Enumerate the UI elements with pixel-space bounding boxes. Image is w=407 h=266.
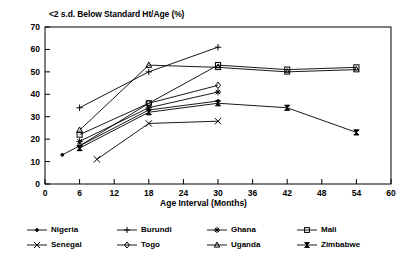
x-axis-label: Age Interval (Months)	[0, 198, 407, 208]
legend-marker-bowtie-icon	[296, 239, 318, 251]
series-senegal	[94, 118, 222, 163]
x-tick-label: 0	[35, 188, 55, 198]
x-tick-label: 12	[104, 188, 124, 198]
x-tick-label: 18	[139, 188, 159, 198]
legend-entry-nigeria[interactable]: Nigeria	[26, 222, 116, 237]
legend-label: Nigeria	[51, 224, 78, 236]
y-tick-label: 20	[22, 134, 40, 144]
legend-label: Uganda	[231, 239, 260, 251]
series-line	[97, 121, 218, 159]
legend-entry-zimbabwe[interactable]: Zimbabwe	[296, 237, 386, 252]
x-tick-label: 48	[312, 188, 332, 198]
x-tick-label: 60	[381, 188, 401, 198]
series-line	[80, 47, 218, 108]
legend-marker-dot-icon	[26, 224, 48, 236]
x-tick-label: 36	[243, 188, 263, 198]
x-tick-label: 6	[70, 188, 90, 198]
y-tick-label: 10	[22, 157, 40, 167]
legend-entry-mali[interactable]: Mali	[296, 222, 386, 237]
legend-entry-togo[interactable]: Togo	[116, 237, 206, 252]
legend-key-glyph	[117, 227, 137, 233]
legend-marker-asterisk-icon	[206, 224, 228, 236]
legend-entry-burundi[interactable]: Burundi	[116, 222, 206, 237]
marker-dot	[36, 228, 39, 231]
chart-figure: <2 s.d. Below Standard Ht/Age (%) 010203…	[0, 0, 407, 266]
legend-key-glyph	[27, 242, 47, 248]
legend-label: Zimbabwe	[321, 239, 360, 251]
legend-label: Togo	[141, 239, 160, 251]
legend-marker-triangle-icon	[206, 239, 228, 251]
marker-dot	[61, 153, 64, 156]
data-series-group	[61, 44, 359, 163]
legend-entry-uganda[interactable]: Uganda	[206, 237, 296, 252]
x-tick-label: 54	[346, 188, 366, 198]
legend-label: Ghana	[231, 224, 256, 236]
legend-marker-square-icon	[296, 224, 318, 236]
series-togo	[77, 82, 221, 149]
legend-key-glyph	[117, 242, 137, 248]
series-line	[80, 85, 218, 146]
legend-key-glyph	[207, 227, 227, 233]
legend-key-glyph	[297, 242, 317, 247]
chart-legend: NigeriaBurundiGhanaMaliSenegalTogoUganda…	[26, 222, 386, 252]
legend-key-glyph	[297, 227, 317, 232]
legend-label: Burundi	[141, 224, 172, 236]
legend-marker-ex-icon	[26, 239, 48, 251]
x-tick-label: 42	[277, 188, 297, 198]
y-tick-label: 40	[22, 89, 40, 99]
x-tick-label: 24	[173, 188, 193, 198]
legend-entry-senegal[interactable]: Senegal	[26, 237, 116, 252]
series-line	[80, 103, 357, 148]
legend-label: Mali	[321, 224, 337, 236]
legend-marker-plus-icon	[116, 224, 138, 236]
y-tick-label: 70	[22, 22, 40, 32]
legend-key-glyph	[27, 228, 47, 231]
x-tick-label: 30	[208, 188, 228, 198]
y-tick-label: 50	[22, 67, 40, 77]
legend-entry-ghana[interactable]: Ghana	[206, 222, 296, 237]
y-tick-label: 60	[22, 44, 40, 54]
marker-triangle	[146, 62, 152, 67]
legend-key-glyph	[207, 242, 227, 247]
marker-bowtie	[77, 146, 82, 151]
legend-label: Senegal	[51, 239, 82, 251]
legend-marker-diamond-icon	[116, 239, 138, 251]
y-tick-label: 30	[22, 112, 40, 122]
marker-bowtie	[354, 130, 359, 135]
